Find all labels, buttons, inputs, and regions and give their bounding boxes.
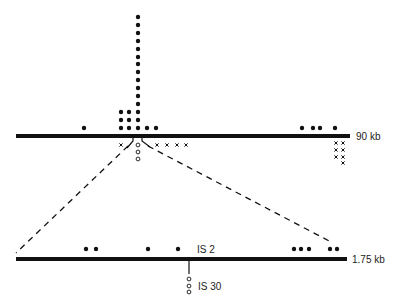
filled-dot-icon [136, 39, 140, 43]
top-map-filled-dots [82, 15, 337, 130]
zoom-line-left [16, 146, 128, 253]
insertion-map-diagram: 90 kb IS 2 IS 30 1.75 kb [0, 0, 393, 307]
x-mark-icon [334, 141, 337, 144]
filled-dot-icon [307, 247, 311, 251]
open-circle-icon [187, 284, 191, 288]
filled-dot-icon [136, 126, 140, 130]
x-mark-icon [119, 143, 122, 146]
filled-dot-icon [136, 23, 140, 27]
filled-dot-icon [299, 247, 303, 251]
x-mark-icon [341, 148, 344, 151]
filled-dot-icon [136, 94, 140, 98]
x-mark-icon [341, 161, 344, 164]
filled-dot-icon [292, 247, 296, 251]
open-circle-icon [136, 150, 140, 154]
is30-label: IS 30 [198, 281, 222, 292]
top-map-open-circles [136, 143, 140, 161]
filled-dot-icon [318, 126, 322, 130]
filled-dot-icon [82, 126, 86, 130]
filled-dot-icon [136, 110, 140, 114]
filled-dot-icon [300, 126, 304, 130]
filled-dot-icon [146, 247, 150, 251]
x-mark-icon [155, 143, 158, 146]
x-mark-icon [334, 155, 337, 158]
filled-dot-icon [127, 110, 131, 114]
filled-dot-icon [136, 47, 140, 51]
filled-dot-icon [127, 126, 131, 130]
filled-dot-icon [311, 126, 315, 130]
filled-dot-icon [328, 247, 332, 251]
x-mark-icon [175, 143, 178, 146]
top-map-x-marks [119, 141, 344, 164]
filled-dot-icon [176, 247, 180, 251]
open-circle-icon [136, 143, 140, 147]
bracket-right [142, 138, 150, 147]
filled-dot-icon [119, 118, 123, 122]
open-circle-icon [136, 157, 140, 161]
filled-dot-icon [145, 126, 149, 130]
bottom-map-open-circles [187, 277, 191, 294]
x-mark-icon [334, 148, 337, 151]
filled-dot-icon [119, 126, 123, 130]
filled-dot-icon [136, 15, 140, 19]
open-circle-icon [187, 277, 191, 281]
filled-dot-icon [136, 55, 140, 59]
filled-dot-icon [136, 118, 140, 122]
x-mark-icon [184, 143, 187, 146]
filled-dot-icon [136, 78, 140, 82]
filled-dot-icon [119, 110, 123, 114]
filled-dot-icon [136, 70, 140, 74]
filled-dot-icon [154, 126, 158, 130]
filled-dot-icon [335, 247, 339, 251]
filled-dot-icon [136, 86, 140, 90]
x-mark-icon [341, 155, 344, 158]
filled-dot-icon [136, 62, 140, 66]
is2-label: IS 2 [197, 244, 215, 255]
filled-dot-icon [94, 247, 98, 251]
zoom-line-right [148, 146, 333, 243]
x-mark-icon [165, 143, 168, 146]
top-map-size-label: 90 kb [356, 131, 381, 142]
filled-dot-icon [84, 247, 88, 251]
filled-dot-icon [333, 126, 337, 130]
bottom-map-size-label: 1.75 kb [352, 254, 385, 265]
filled-dot-icon [136, 102, 140, 106]
filled-dot-icon [136, 31, 140, 35]
open-circle-icon [187, 290, 191, 294]
filled-dot-icon [127, 118, 131, 122]
x-mark-icon [341, 141, 344, 144]
